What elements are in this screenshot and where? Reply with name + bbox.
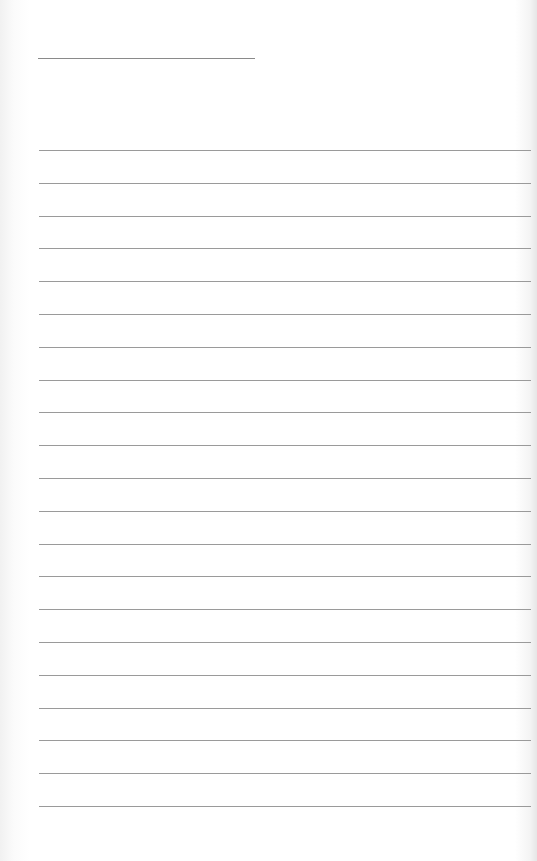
ruled-line: [39, 216, 531, 217]
ruled-line: [39, 445, 531, 446]
ruled-line: [39, 576, 531, 577]
ruled-line: [39, 150, 531, 151]
ruled-line: [39, 544, 531, 545]
ruled-line: [39, 708, 531, 709]
ruled-line: [39, 347, 531, 348]
title-underline: [38, 58, 255, 59]
ruled-line: [39, 478, 531, 479]
ruled-line: [39, 281, 531, 282]
ruled-line: [39, 380, 531, 381]
ruled-line: [39, 773, 531, 774]
ruled-line: [39, 675, 531, 676]
ruled-line: [39, 511, 531, 512]
lined-paper-page: [0, 0, 537, 861]
ruled-line: [39, 740, 531, 741]
ruled-line: [39, 248, 531, 249]
ruled-line: [39, 642, 531, 643]
ruled-line: [39, 806, 531, 807]
ruled-line: [39, 609, 531, 610]
ruled-line: [39, 183, 531, 184]
ruled-line: [39, 412, 531, 413]
ruled-line: [39, 314, 531, 315]
